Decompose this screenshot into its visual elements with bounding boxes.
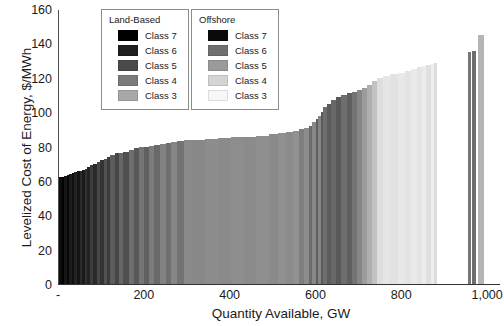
y-axis-tick: 120 [22, 74, 52, 84]
legend-item-label: Class 3 [235, 90, 267, 101]
bar [468, 52, 471, 284]
bar [177, 141, 184, 284]
legend-swatch-icon [118, 60, 138, 71]
legend-item: Class 3 [108, 88, 182, 102]
legend-item: Class 3 [198, 88, 272, 102]
bar [434, 63, 437, 284]
y-axis-tick: 60 [22, 177, 52, 187]
bar [256, 136, 269, 284]
bar [398, 73, 405, 284]
bar [218, 138, 231, 284]
x-axis-tick: 1,000 [457, 288, 504, 302]
legend-item-label: Class 3 [145, 90, 177, 101]
legend-swatch-icon [118, 45, 138, 56]
legend-land-based-items: Class 7Class 6Class 5Class 4Class 3 [108, 28, 182, 102]
x-axis-tick: 200 [114, 288, 174, 302]
legend-offshore: Offshore Class 7Class 6Class 5Class 4Cla… [191, 9, 279, 110]
bar [269, 134, 278, 284]
y-axis-tick: 140 [22, 39, 52, 49]
legend-swatch-icon [208, 90, 228, 101]
legend-swatch-icon [208, 60, 228, 71]
bar [390, 74, 398, 284]
y-axis-tick: 80 [22, 143, 52, 153]
y-axis-tick: 20 [22, 246, 52, 256]
y-axis-tick: 100 [22, 108, 52, 118]
legend-swatch-icon [208, 75, 228, 86]
legend-item: Class 7 [108, 28, 182, 42]
bar [478, 35, 484, 284]
y-axis-tick-labels: 160140120100806040200 [18, 0, 52, 326]
y-axis-tick: 40 [22, 211, 52, 221]
x-axis-tick: 400 [200, 288, 260, 302]
legend-item-label: Class 6 [235, 45, 267, 56]
legend-item-label: Class 4 [145, 75, 177, 86]
x-axis-tick: 600 [285, 288, 345, 302]
bar [244, 137, 257, 284]
legend-item: Class 6 [198, 43, 272, 57]
legend-item-label: Class 5 [235, 60, 267, 71]
bar [231, 137, 244, 284]
legend-item-label: Class 7 [145, 30, 177, 41]
legend-item: Class 5 [198, 58, 272, 72]
legend-offshore-title: Offshore [199, 14, 272, 25]
legend-item: Class 7 [198, 28, 272, 42]
legend-item: Class 6 [108, 43, 182, 57]
x-axis-tick: 800 [371, 288, 431, 302]
bar [193, 140, 205, 284]
legend-swatch-icon [208, 30, 228, 41]
y-axis-tick: 160 [22, 5, 52, 15]
legend-item: Class 5 [108, 58, 182, 72]
x-axis-tick-labels: -2004006008001,000 [0, 288, 504, 308]
bar [205, 139, 218, 284]
legend-swatch-icon [118, 30, 138, 41]
legend-item-label: Class 7 [235, 30, 267, 41]
legend-item: Class 4 [108, 73, 182, 87]
legend-swatch-icon [208, 45, 228, 56]
legend-offshore-items: Class 7Class 6Class 5Class 4Class 3 [198, 28, 272, 102]
legend-item-label: Class 5 [145, 60, 177, 71]
bar [278, 133, 286, 284]
legend-swatch-icon [118, 90, 138, 101]
bar [383, 76, 390, 284]
legend-land-based-title: Land-Based [109, 14, 182, 25]
bar [286, 132, 293, 284]
bar [472, 51, 475, 284]
legend-item-label: Class 4 [235, 75, 267, 86]
legend-item: Class 4 [198, 73, 272, 87]
legend-land-based: Land-Based Class 7Class 6Class 5Class 4C… [101, 9, 189, 110]
chart-figure: Levelized Cost of Energy, $/MWh 16014012… [0, 0, 504, 326]
x-axis-tick: - [28, 288, 88, 302]
legend-item-label: Class 6 [145, 45, 177, 56]
legend-swatch-icon [118, 75, 138, 86]
bar [184, 140, 193, 284]
x-axis-title: Quantity Available, GW [58, 306, 504, 321]
